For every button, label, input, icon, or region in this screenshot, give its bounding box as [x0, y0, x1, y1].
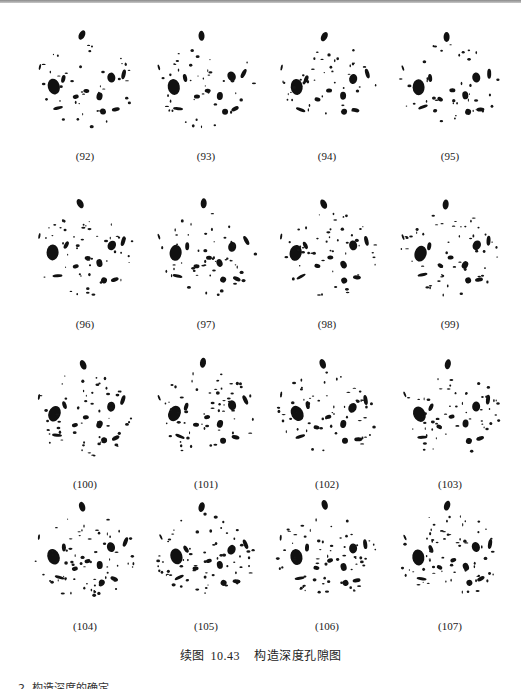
panel-label: (107) — [390, 620, 510, 632]
pore-distribution-image — [25, 498, 145, 618]
figure-caption: 续图10.43构造深度孔隙图 — [0, 646, 521, 664]
pore-panel: (102) — [267, 356, 387, 516]
pore-distribution-image — [25, 28, 145, 148]
panel-label: (98) — [267, 318, 387, 330]
pore-distribution-image — [267, 356, 387, 476]
pore-panel: (99) — [390, 196, 510, 356]
panel-label: (96) — [25, 318, 145, 330]
pore-panel: (105) — [146, 498, 266, 658]
panel-label: (95) — [390, 150, 510, 162]
pore-distribution-image — [146, 196, 266, 316]
panel-label: (99) — [390, 318, 510, 330]
panel-label: (103) — [390, 478, 510, 490]
pore-panel: (106) — [267, 498, 387, 658]
pore-distribution-image — [146, 356, 266, 476]
pore-panel: (95) — [390, 28, 510, 188]
caption-number: 10.43 — [211, 649, 241, 663]
pore-distribution-image — [390, 498, 510, 618]
panel-label: (93) — [146, 150, 266, 162]
panel-label: (106) — [267, 620, 387, 632]
pore-distribution-image — [390, 356, 510, 476]
pore-panel: (96) — [25, 196, 145, 356]
pore-distribution-image — [146, 498, 266, 618]
pore-panel: (92) — [25, 28, 145, 188]
pore-panel: (94) — [267, 28, 387, 188]
pore-distribution-image — [267, 196, 387, 316]
pore-panel: (107) — [390, 498, 510, 658]
pore-figure-grid: (92)(93)(94)(95)(96)(97)(98)(99)(100)(10… — [0, 0, 521, 640]
panel-label: (105) — [146, 620, 266, 632]
pore-panel: (101) — [146, 356, 266, 516]
panel-label: (101) — [146, 478, 266, 490]
pore-distribution-image — [25, 356, 145, 476]
pore-panel: (98) — [267, 196, 387, 356]
caption-title: 构造深度孔隙图 — [254, 649, 342, 663]
caption-prefix: 续图 — [180, 649, 205, 663]
pore-panel: (103) — [390, 356, 510, 516]
panel-label: (100) — [25, 478, 145, 490]
pore-distribution-image — [267, 28, 387, 148]
pore-distribution-image — [25, 196, 145, 316]
pore-distribution-image — [146, 28, 266, 148]
pore-panel: (97) — [146, 196, 266, 356]
truncated-section-heading: 2. 构造深度的确定 — [18, 679, 109, 689]
pore-panel: (100) — [25, 356, 145, 516]
pore-distribution-image — [390, 196, 510, 316]
pore-distribution-image — [267, 498, 387, 618]
panel-label: (94) — [267, 150, 387, 162]
pore-panel: (93) — [146, 28, 266, 188]
panel-label: (92) — [25, 150, 145, 162]
panel-label: (97) — [146, 318, 266, 330]
pore-distribution-image — [390, 28, 510, 148]
pore-panel: (104) — [25, 498, 145, 658]
panel-label: (104) — [25, 620, 145, 632]
panel-label: (102) — [267, 478, 387, 490]
